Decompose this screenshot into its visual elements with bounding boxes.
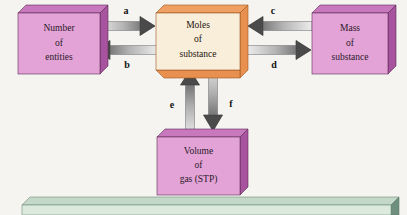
- box-label-line: gas (STP): [180, 174, 218, 185]
- diagram-canvas: Number of entities Mass of substance Vol…: [0, 0, 407, 215]
- box-label-line: Moles: [186, 20, 210, 30]
- box-moles-of-substance: Moles of substance: [156, 5, 248, 78]
- box-label-line: Number: [43, 23, 75, 33]
- arrow-e: [181, 70, 200, 137]
- box-mass-of-substance: Mass of substance: [312, 5, 396, 74]
- box-label-line: substance: [180, 49, 217, 59]
- box-label-line: substance: [332, 52, 369, 62]
- footer-bar: [22, 197, 399, 215]
- arrow-label-e: e: [170, 99, 175, 110]
- box-label-line: entities: [45, 52, 73, 62]
- arrow-label-f: f: [229, 98, 233, 109]
- arrow-c: [248, 17, 312, 36]
- box-label-line: of: [55, 38, 64, 48]
- box-label-line: of: [346, 38, 355, 48]
- box-label-line: Mass: [340, 23, 360, 33]
- arrow-d: [247, 41, 311, 60]
- arrow-label-a: a: [124, 5, 129, 16]
- arrow-label-c: c: [271, 5, 276, 16]
- arrow-label-d: d: [271, 59, 277, 70]
- box-volume-of-gas-stp: Volume of gas (STP): [157, 129, 248, 195]
- box-label-line: Volume: [184, 146, 213, 156]
- box-label-line: of: [194, 34, 203, 44]
- box-label-line: of: [195, 160, 204, 170]
- arrow-label-b: b: [124, 59, 130, 70]
- box-number-of-entities: Number of entities: [18, 5, 108, 74]
